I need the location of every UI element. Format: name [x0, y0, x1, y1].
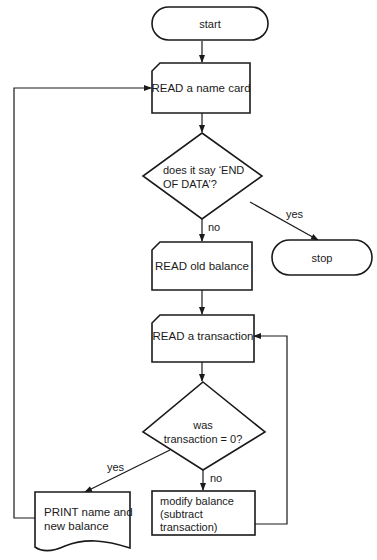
decision-zero-line1: was — [192, 419, 213, 431]
decision-end-line1: does it say ‘END — [163, 164, 244, 176]
start-label: start — [199, 18, 220, 30]
read-name-card-node: READ a name card — [151, 63, 250, 113]
edge-decision-yes-to-stop — [250, 202, 318, 240]
decision-end-of-data: does it say ‘END OF DATA’? — [143, 133, 262, 219]
start-terminal: start — [152, 7, 268, 40]
decision-transaction-zero: was transaction = 0? — [143, 382, 265, 470]
read-name-card-label: READ a name card — [151, 82, 250, 94]
read-old-balance-label: READ old balance — [155, 260, 249, 272]
edge-label-zero-yes: yes — [107, 461, 125, 473]
print-line2: new balance — [44, 520, 109, 532]
print-balance-node: PRINT name and new balance — [35, 492, 133, 551]
modify-balance-node: modify balance (subtract transaction) — [152, 491, 255, 535]
print-line1: PRINT name and — [44, 506, 133, 518]
read-transaction-node: READ a transaction — [152, 315, 254, 362]
modify-line1: modify balance — [160, 495, 234, 507]
read-transaction-label: READ a transaction — [153, 330, 254, 342]
stop-terminal: stop — [272, 240, 372, 275]
edge-label-zero-no: no — [210, 472, 222, 484]
edge-zero-yes-to-print — [85, 450, 170, 492]
decision-zero-line2: transaction = 0? — [164, 433, 243, 445]
read-old-balance-node: READ old balance — [152, 242, 252, 290]
modify-line2: (subtract — [160, 508, 203, 520]
flowchart: start READ a name card does it say ‘END … — [0, 0, 377, 560]
edge-label-end-no: no — [208, 221, 220, 233]
stop-label: stop — [312, 252, 333, 264]
edge-label-end-yes: yes — [286, 208, 304, 220]
decision-end-line2: OF DATA’? — [163, 178, 217, 190]
modify-line3: transaction) — [160, 521, 217, 533]
edge-print-loop-to-read-name — [14, 88, 151, 518]
